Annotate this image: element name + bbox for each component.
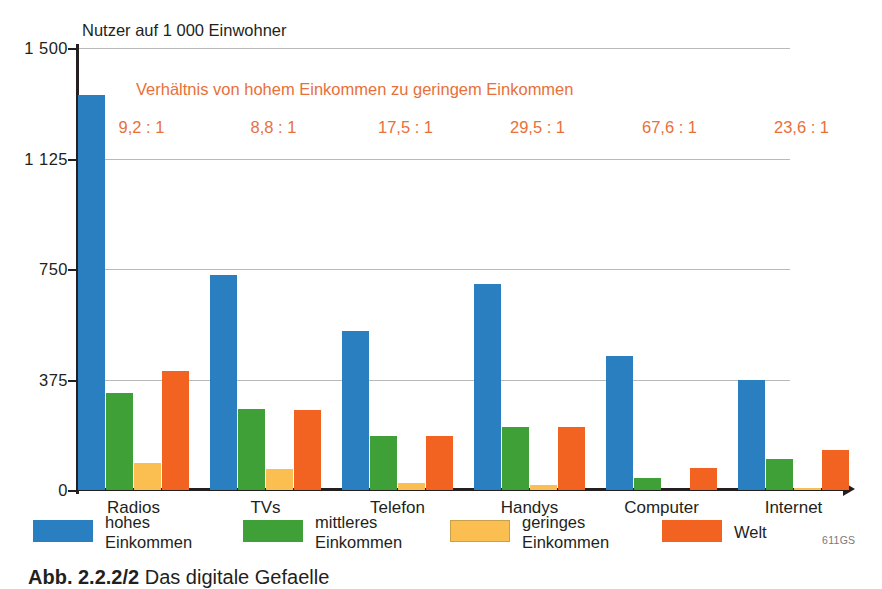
legend-label-line1: Welt (734, 522, 767, 542)
bar (634, 478, 661, 490)
ratio-annotation: 29,5 : 1 (510, 118, 565, 137)
bar (370, 436, 397, 491)
bar (266, 469, 293, 490)
legend-label: mittleresEinkommen (315, 512, 402, 552)
bar (106, 393, 133, 490)
chart-legend: 611GS hohesEinkommenmittleresEinkommenge… (0, 512, 882, 560)
bar (210, 275, 237, 490)
legend-label: geringesEinkommen (522, 512, 609, 552)
bar (398, 483, 425, 490)
legend-label-line1: geringes (522, 512, 609, 532)
y-axis-title: Nutzer auf 1 000 Einwohner (82, 21, 287, 40)
bar-group (738, 48, 850, 490)
bar (78, 95, 105, 490)
bar-group (210, 48, 322, 490)
ratio-annotation: 23,6 : 1 (774, 118, 829, 137)
legend-label: hohesEinkommen (105, 512, 192, 552)
y-axis-tick-label: 0 (58, 481, 68, 500)
bar (426, 436, 453, 491)
bar-group (474, 48, 586, 490)
legend-label-line1: hohes (105, 512, 192, 532)
bar (502, 427, 529, 490)
bar (690, 468, 717, 490)
bar (238, 409, 265, 490)
bar (822, 450, 849, 490)
bar (342, 331, 369, 490)
bar (766, 459, 793, 490)
bar (738, 380, 765, 491)
legend-label-line1: mittleres (315, 512, 402, 532)
legend-label-line2: Einkommen (105, 532, 192, 552)
x-axis-line (76, 488, 846, 491)
bar (294, 410, 321, 490)
legend-swatch (450, 520, 510, 542)
legend-source-code: 611GS (822, 534, 855, 546)
legend-label: Welt (734, 522, 767, 542)
legend-swatch (33, 520, 93, 542)
y-axis-labels: 03757501 1251 500 (0, 0, 68, 584)
bar (134, 463, 161, 490)
y-axis-tick-label: 1 125 (24, 149, 68, 168)
legend-swatch (243, 520, 303, 542)
figure-caption-text: Das digitale Gefaelle (145, 566, 330, 588)
figure-number: Abb. 2.2.2/2 (28, 566, 139, 588)
y-axis-tick-label: 1 500 (24, 39, 68, 58)
ratio-annotation: 67,6 : 1 (642, 118, 697, 137)
legend-label-line2: Einkommen (522, 532, 609, 552)
bar-group (342, 48, 454, 490)
legend-label-line2: Einkommen (315, 532, 402, 552)
bar (794, 488, 821, 490)
bar (606, 356, 633, 490)
bar (162, 371, 189, 490)
y-axis-tick-label: 750 (39, 260, 68, 279)
bar (530, 485, 557, 490)
legend-swatch (662, 520, 722, 542)
bar-group (606, 48, 718, 490)
ratio-annotation: 9,2 : 1 (119, 118, 165, 137)
bar-group (78, 48, 190, 490)
ratio-annotation: 8,8 : 1 (251, 118, 297, 137)
figure-caption: Abb. 2.2.2/2 Das digitale Gefaelle (28, 566, 329, 589)
ratio-annotation: 17,5 : 1 (378, 118, 433, 137)
bar (474, 284, 501, 490)
bar (558, 427, 585, 490)
y-axis-tick-label: 375 (39, 370, 68, 389)
